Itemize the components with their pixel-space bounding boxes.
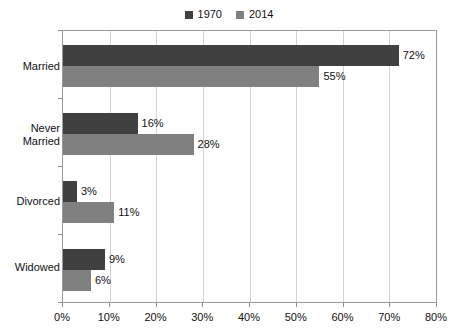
bar-divorced-1970[interactable]: [63, 181, 77, 202]
bar-value-widowed-1970: 9%: [109, 254, 125, 265]
legend-entry-1970[interactable]: 1970: [185, 9, 222, 20]
bar-row-married-2014[interactable]: 55%: [63, 66, 436, 87]
plot-area: 72% 55% 16% 28% 3%: [62, 30, 437, 303]
x-tick-label-0: 0%: [42, 312, 82, 323]
bar-row-widowed-2014[interactable]: 6%: [63, 270, 436, 291]
bar-value-never-married-2014: 28%: [198, 139, 220, 150]
legend-label-2014: 2014: [249, 9, 273, 20]
category-label-married-text: Married: [23, 60, 60, 72]
bar-row-divorced-1970[interactable]: 3%: [63, 181, 436, 202]
chart-legend: 1970 2014: [0, 9, 458, 20]
x-tick-label-70: 70%: [369, 312, 409, 323]
bar-row-widowed-1970[interactable]: 9%: [63, 249, 436, 270]
x-tick-label-10: 10%: [89, 312, 129, 323]
bar-married-1970[interactable]: [63, 45, 399, 66]
x-tick-label-20: 20%: [136, 312, 176, 323]
legend-label-1970: 1970: [198, 9, 222, 20]
bar-widowed-1970[interactable]: [63, 249, 105, 270]
category-label-divorced-text: Divorced: [17, 195, 60, 207]
category-label-widowed-text: Widowed: [15, 261, 60, 273]
bar-group-never-married: 16% 28%: [63, 113, 436, 155]
bar-widowed-2014[interactable]: [63, 270, 91, 291]
bar-group-divorced: 3% 11%: [63, 181, 436, 223]
x-tick-30: [202, 303, 203, 307]
bar-value-widowed-2014: 6%: [95, 275, 111, 286]
x-tick-80: [436, 303, 437, 307]
x-tick-50: [296, 303, 297, 307]
bar-group-widowed: 9% 6%: [63, 249, 436, 291]
bar-married-2014[interactable]: [63, 66, 319, 87]
x-tick-60: [343, 303, 344, 307]
bar-value-never-married-1970: 16%: [142, 118, 164, 129]
bar-never-married-2014[interactable]: [63, 134, 194, 155]
bar-row-divorced-2014[interactable]: 11%: [63, 202, 436, 223]
bar-group-married: 72% 55%: [63, 45, 436, 87]
x-tick-label-50: 50%: [276, 312, 316, 323]
legend-swatch-1970: [185, 11, 193, 19]
x-tick-0: [62, 303, 63, 307]
x-tick-20: [156, 303, 157, 307]
x-tick-label-60: 60%: [323, 312, 363, 323]
bar-value-married-1970: 72%: [403, 50, 425, 61]
category-label-never-married-line1: Never: [4, 122, 60, 135]
bar-never-married-1970[interactable]: [63, 113, 138, 134]
x-tick-70: [389, 303, 390, 307]
legend-entry-2014[interactable]: 2014: [236, 9, 273, 20]
x-tick-40: [249, 303, 250, 307]
category-label-divorced: Divorced: [4, 195, 60, 208]
category-label-married: Married: [4, 60, 60, 73]
x-tick-10: [109, 303, 110, 307]
bar-row-never-married-2014[interactable]: 28%: [63, 134, 436, 155]
bar-row-never-married-1970[interactable]: 16%: [63, 113, 436, 134]
category-label-never-married-line2: Married: [4, 135, 60, 148]
legend-swatch-2014: [236, 11, 244, 19]
bar-divorced-2014[interactable]: [63, 202, 114, 223]
bar-chart: 1970 2014 Married Never Married Divorced…: [0, 0, 458, 333]
bar-row-married-1970[interactable]: 72%: [63, 45, 436, 66]
x-tick-label-80: 80%: [416, 312, 456, 323]
bar-value-divorced-1970: 3%: [81, 186, 97, 197]
category-label-never-married: Never Married: [4, 122, 60, 148]
x-tick-label-30: 30%: [182, 312, 222, 323]
bar-value-divorced-2014: 11%: [118, 207, 139, 218]
bar-value-married-2014: 55%: [323, 71, 345, 82]
category-label-widowed: Widowed: [4, 261, 60, 274]
x-tick-label-40: 40%: [229, 312, 269, 323]
